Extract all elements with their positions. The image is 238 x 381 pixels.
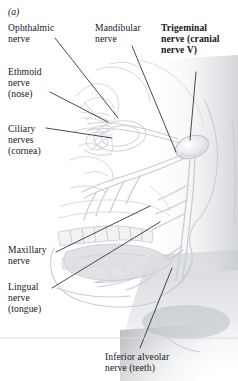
label-lingual-nerve: Lingual nerve (tongue) (8, 281, 41, 315)
panel-identifier: (a) (8, 6, 19, 17)
leader-ophthalmic (55, 38, 118, 118)
label-inferior-alveolar-nerve: Inferior alveolar nerve (teeth) (105, 351, 169, 373)
label-mandibular-nerve: Mandibular nerve (95, 22, 141, 44)
label-maxillary-nerve: Maxillary nerve (8, 244, 47, 266)
leader-ethmoid (50, 92, 108, 122)
label-ethmoid-nerve: Ethmoid nerve (nose) (8, 66, 42, 100)
label-ophthalmic-nerve: Ophthalmic nerve (8, 22, 54, 44)
anatomy-illustration (0, 0, 238, 381)
upper-teeth-row (58, 226, 153, 246)
label-trigeminal-nerve: Trigeminal nerve (cranial nerve V) (161, 22, 220, 56)
trigeminal-nerve-figure: (a) Ophthalmic nerve Ethmoid nerve (nose… (0, 0, 238, 381)
face-soft-shading (118, 55, 238, 381)
label-ciliary-nerves: Ciliary nerves (cornea) (8, 123, 41, 157)
